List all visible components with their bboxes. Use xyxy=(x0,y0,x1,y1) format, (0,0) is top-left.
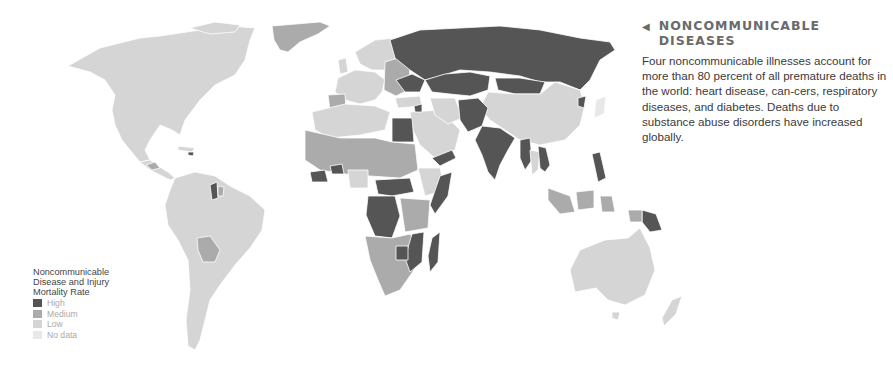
info-panel: ◀ NONCOMMUNICABLE DISEASES Four noncommu… xyxy=(642,18,892,144)
legend-label: No data xyxy=(47,330,77,340)
heading-line-2: DISEASES xyxy=(659,33,820,48)
region-australia xyxy=(570,228,655,305)
region-nigeria xyxy=(348,170,368,188)
map-legend: Noncommunicable Disease and Injury Morta… xyxy=(33,268,143,341)
legend-item-high: High xyxy=(33,297,143,308)
region-egypt xyxy=(392,118,414,142)
region-caribbean xyxy=(178,146,195,152)
region-west-africa-high xyxy=(310,170,328,182)
region-philippines xyxy=(592,152,606,182)
legend-title: Noncommunicable Disease and Injury Morta… xyxy=(33,268,143,297)
legend-swatch-high xyxy=(33,299,42,307)
region-uk xyxy=(338,58,348,74)
region-mongolia xyxy=(495,78,545,94)
region-india xyxy=(475,126,515,180)
region-tasmania xyxy=(612,312,620,320)
legend-swatch-nodata xyxy=(33,331,42,339)
legend-item-nodata: No data xyxy=(33,330,143,341)
legend-item-low: Low xyxy=(33,319,143,330)
region-madagascar xyxy=(428,232,440,272)
region-japan xyxy=(594,96,606,118)
region-north-africa xyxy=(312,104,390,138)
region-zimbabwe xyxy=(396,246,408,260)
panel-heading: ◀ NONCOMMUNICABLE DISEASES xyxy=(642,18,892,48)
region-north-america xyxy=(68,26,255,162)
region-sudan xyxy=(375,178,414,196)
region-borneo xyxy=(576,190,594,210)
legend-label: Medium xyxy=(47,309,78,319)
region-greenland xyxy=(272,22,330,52)
legend-item-medium: Medium xyxy=(33,308,143,319)
region-papua-new-guinea xyxy=(642,210,662,232)
region-haiti xyxy=(188,152,194,156)
region-sulawesi-islands xyxy=(600,196,615,212)
region-drc xyxy=(366,196,400,238)
region-indonesia xyxy=(548,188,575,214)
heading-line-1: NONCOMMUNICABLE xyxy=(659,18,820,33)
region-east-africa xyxy=(400,198,430,232)
region-suriname xyxy=(218,186,224,196)
region-vietnam-laos xyxy=(538,146,550,172)
legend-label: Low xyxy=(47,319,63,329)
region-central-america xyxy=(140,160,175,180)
panel-body: Four noncommunicable illnesses account f… xyxy=(642,53,892,144)
region-west-papua xyxy=(628,210,642,222)
arrow-left-icon: ◀ xyxy=(642,19,651,34)
region-new-zealand xyxy=(662,296,682,326)
region-burkina-faso xyxy=(330,164,344,174)
legend-swatch-medium xyxy=(33,310,42,318)
legend-label: High xyxy=(47,298,65,308)
legend-swatch-low xyxy=(33,320,42,328)
